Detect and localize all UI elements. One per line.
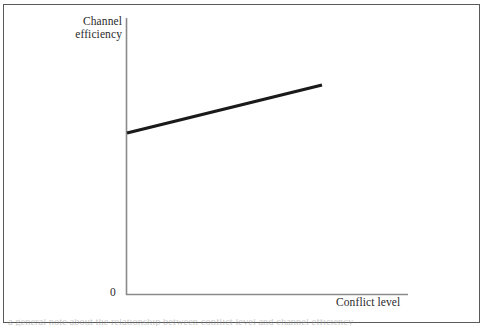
y-axis-label-line-2: efficiency [75,28,122,41]
caption-text: a general note about the relationship be… [8,319,475,326]
x-axis-label: Conflict level [336,296,400,309]
caption-clipped: a general note about the relationship be… [8,319,475,326]
origin-tick-label: 0 [110,286,116,298]
plot-area [0,0,483,326]
figure-container: Channel efficiency Conflict level 0 a ge… [0,0,483,326]
series-line-channel-efficiency [127,85,322,133]
y-axis-label: Channel efficiency [75,15,122,41]
y-axis-label-line-1: Channel [75,15,122,28]
